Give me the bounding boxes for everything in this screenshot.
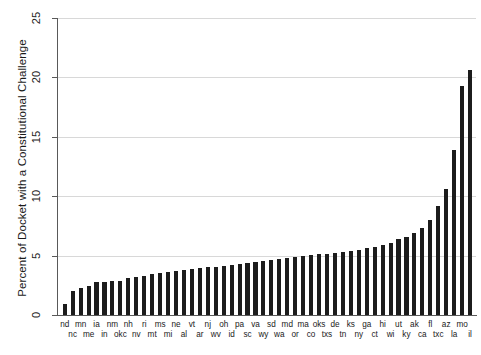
- bar: [428, 220, 432, 315]
- bar: [190, 269, 194, 315]
- bar: [126, 278, 130, 315]
- bar: [444, 189, 448, 315]
- bar: [63, 304, 67, 315]
- y-tick-label: 15: [22, 130, 50, 144]
- bar: [110, 281, 114, 315]
- bar: [150, 274, 154, 315]
- bar: [373, 247, 377, 315]
- bar: [142, 276, 146, 315]
- bar: [365, 248, 369, 315]
- bar: [222, 266, 226, 315]
- bar: [468, 70, 472, 315]
- chart-figure: Percent of Docket with a Constitutional …: [0, 0, 481, 355]
- x-tick-label: mo: [451, 320, 473, 330]
- bar: [277, 259, 281, 315]
- bar: [245, 263, 249, 315]
- x-tick-label: il: [459, 330, 481, 340]
- bar: [269, 260, 273, 315]
- y-tick-label: 25: [22, 11, 50, 25]
- y-tick-label-text: 20: [29, 63, 43, 91]
- bar: [301, 256, 305, 315]
- y-tick-label: 20: [22, 70, 50, 84]
- bar: [158, 273, 162, 315]
- bar: [357, 250, 361, 315]
- bar: [412, 233, 416, 315]
- y-tick-label: 10: [22, 189, 50, 203]
- bar: [285, 258, 289, 315]
- bar: [293, 257, 297, 315]
- bar: [238, 264, 242, 315]
- bar: [206, 267, 210, 315]
- y-tick-label-text: 10: [29, 182, 43, 210]
- bar: [102, 282, 106, 315]
- bar: [174, 271, 178, 315]
- y-tick-label: 0: [22, 308, 50, 322]
- bar: [317, 254, 321, 315]
- bar: [182, 270, 186, 315]
- bar: [381, 245, 385, 315]
- bar: [349, 251, 353, 315]
- bar: [79, 288, 83, 315]
- bar: [309, 255, 313, 315]
- y-tick-label-text: 0: [29, 301, 43, 329]
- y-axis-title: Percent of Docket with a Constitutional …: [14, 8, 30, 328]
- bar: [94, 282, 98, 315]
- bar: [404, 237, 408, 315]
- bar: [325, 254, 329, 315]
- bar: [253, 262, 257, 315]
- bar: [341, 252, 345, 315]
- bar: [166, 272, 170, 315]
- bar: [396, 239, 400, 315]
- y-tick-label-text: 15: [29, 123, 43, 151]
- bar: [460, 86, 464, 315]
- bar: [214, 267, 218, 315]
- y-tick-label-text: 25: [29, 4, 43, 32]
- bar: [389, 243, 393, 315]
- bar: [261, 261, 265, 315]
- bar: [452, 150, 456, 315]
- bar: [134, 277, 138, 315]
- y-tick-label: 5: [22, 249, 50, 263]
- bar: [436, 206, 440, 315]
- bar: [230, 265, 234, 315]
- x-axis-line: [57, 315, 477, 316]
- x-axis-tick-labels: ndncmnmeiainnmokcnhnvrimtmsminealvtarnjw…: [58, 317, 476, 353]
- bar: [118, 281, 122, 315]
- bar: [71, 291, 75, 315]
- bar: [87, 286, 91, 315]
- bar-series: [58, 18, 476, 315]
- y-tick-label-text: 5: [29, 242, 43, 270]
- bar: [420, 228, 424, 315]
- bar: [198, 268, 202, 315]
- bar: [333, 253, 337, 315]
